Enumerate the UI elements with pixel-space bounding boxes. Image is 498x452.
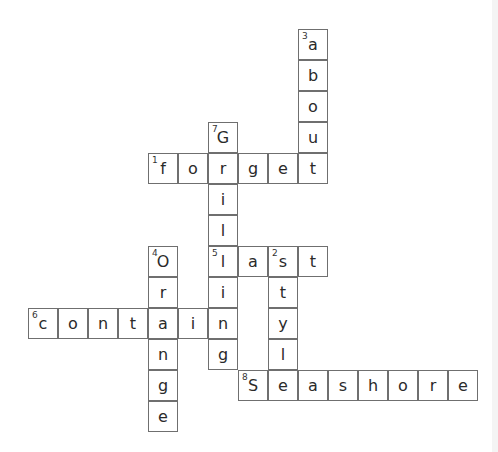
crossword-cell[interactable]: u: [298, 122, 328, 153]
cell-letter: l: [281, 346, 285, 363]
crossword-cell[interactable]: 5l: [208, 246, 238, 277]
cell-letter: y: [278, 315, 287, 332]
cell-letter: a: [158, 315, 168, 332]
crossword-cell[interactable]: t: [298, 153, 328, 184]
cell-letter: o: [68, 315, 78, 332]
crossword-cell[interactable]: o: [58, 308, 88, 339]
cell-letter: G: [217, 129, 229, 146]
crossword-cell[interactable]: i: [178, 308, 208, 339]
crossword-cell[interactable]: b: [298, 60, 328, 91]
crossword-cell[interactable]: 7G: [208, 122, 238, 153]
crossword-cell[interactable]: t: [118, 308, 148, 339]
crossword-cell[interactable]: 3a: [298, 29, 328, 60]
crossword-cell[interactable]: n: [208, 308, 238, 339]
crossword-cell[interactable]: i: [208, 277, 238, 308]
cell-letter: h: [368, 377, 378, 394]
crossword-cell[interactable]: a: [148, 308, 178, 339]
clue-number: 7: [212, 125, 218, 134]
crossword-cell[interactable]: 8S: [238, 370, 268, 401]
crossword-cell[interactable]: e: [448, 370, 478, 401]
crossword-cell[interactable]: 1f: [148, 153, 178, 184]
cell-letter: o: [188, 160, 198, 177]
clue-number: 6: [32, 311, 38, 320]
cell-letter: t: [310, 160, 316, 177]
crossword-cell[interactable]: g: [208, 339, 238, 370]
crossword-cell[interactable]: y: [268, 308, 298, 339]
cell-letter: g: [218, 346, 228, 363]
cell-letter: i: [221, 191, 225, 208]
cell-letter: e: [158, 408, 168, 425]
cell-letter: u: [308, 129, 318, 146]
cell-letter: n: [98, 315, 108, 332]
cell-letter: e: [458, 377, 468, 394]
cell-letter: n: [158, 346, 168, 363]
crossword-cell[interactable]: o: [178, 153, 208, 184]
crossword-cell[interactable]: a: [238, 246, 268, 277]
crossword-cell[interactable]: l: [208, 215, 238, 246]
cell-letter: g: [248, 160, 258, 177]
crossword-cell[interactable]: 2s: [268, 246, 298, 277]
cell-letter: S: [248, 377, 258, 394]
cell-letter: t: [130, 315, 136, 332]
cell-letter: a: [308, 36, 318, 53]
clue-number: 1: [152, 156, 158, 165]
cell-letter: r: [160, 284, 167, 301]
crossword-cell[interactable]: r: [418, 370, 448, 401]
clue-number: 2: [272, 249, 278, 258]
cell-letter: n: [218, 315, 228, 332]
cell-letter: g: [158, 377, 168, 394]
cell-letter: r: [430, 377, 437, 394]
crossword-cell[interactable]: g: [148, 370, 178, 401]
clue-number: 8: [242, 373, 248, 382]
cell-letter: o: [308, 98, 318, 115]
cell-letter: f: [160, 160, 166, 177]
cell-letter: i: [191, 315, 195, 332]
clue-number: 5: [212, 249, 218, 258]
crossword-cell[interactable]: n: [88, 308, 118, 339]
cell-letter: O: [157, 253, 170, 270]
clue-number: 4: [152, 249, 158, 258]
cell-letter: b: [308, 67, 318, 84]
cell-letter: l: [221, 253, 225, 270]
cell-letter: s: [339, 377, 347, 394]
cell-letter: a: [308, 377, 318, 394]
cell-letter: e: [278, 160, 288, 177]
crossword-cell[interactable]: l: [268, 339, 298, 370]
crossword-cell[interactable]: g: [238, 153, 268, 184]
crossword-cell[interactable]: a: [298, 370, 328, 401]
cell-letter: c: [39, 315, 48, 332]
cell-letter: r: [220, 160, 227, 177]
crossword-cell[interactable]: 4O: [148, 246, 178, 277]
crossword-cell[interactable]: 6c: [28, 308, 58, 339]
cell-letter: i: [221, 284, 225, 301]
crossword-cell[interactable]: t: [298, 246, 328, 277]
crossword-grid: 3abo7Gu1forgetil4O5la2strit6containynglg…: [0, 0, 498, 452]
crossword-cell[interactable]: i: [208, 184, 238, 215]
cell-letter: t: [310, 253, 316, 270]
crossword-cell[interactable]: t: [268, 277, 298, 308]
clue-number: 3: [302, 32, 308, 41]
crossword-cell[interactable]: r: [208, 153, 238, 184]
crossword-cell[interactable]: o: [298, 91, 328, 122]
crossword-cell[interactable]: r: [148, 277, 178, 308]
cell-letter: l: [221, 222, 225, 239]
cell-letter: a: [248, 253, 258, 270]
crossword-cell[interactable]: e: [268, 153, 298, 184]
cell-letter: o: [398, 377, 408, 394]
crossword-cell[interactable]: e: [268, 370, 298, 401]
crossword-cell[interactable]: s: [328, 370, 358, 401]
crossword-cell[interactable]: e: [148, 401, 178, 432]
crossword-cell[interactable]: n: [148, 339, 178, 370]
crossword-cell[interactable]: o: [388, 370, 418, 401]
cell-letter: e: [278, 377, 288, 394]
crossword-cell[interactable]: h: [358, 370, 388, 401]
cell-letter: s: [279, 253, 287, 270]
cell-letter: t: [280, 284, 286, 301]
